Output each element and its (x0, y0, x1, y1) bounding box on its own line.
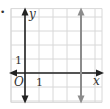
coordinate-graph: y x O 1 1 (0, 0, 110, 109)
vertical-line-x-equals-4 (78, 8, 85, 104)
y-axis-label: y (28, 7, 36, 21)
origin-label: O (14, 75, 24, 89)
x-axis-label: x (93, 74, 100, 88)
x-tick-label-1: 1 (36, 76, 43, 89)
y-tick-label-1: 1 (15, 54, 22, 67)
axes (9, 8, 104, 104)
